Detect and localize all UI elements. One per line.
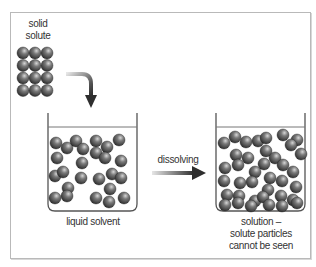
solid-solute-particles	[17, 47, 53, 97]
particle	[41, 85, 53, 97]
particle	[234, 177, 246, 189]
right-beaker	[216, 113, 307, 212]
right-arrow-icon	[152, 166, 206, 180]
particle	[242, 152, 254, 164]
solution-label-line3: cannot be seen	[215, 240, 307, 252]
particle	[219, 199, 231, 211]
particle	[29, 47, 41, 59]
solvent-particles	[49, 134, 130, 208]
particle	[104, 183, 116, 195]
particle	[263, 199, 275, 211]
particle	[115, 172, 127, 184]
particle	[260, 132, 272, 144]
particle	[41, 47, 53, 59]
particle	[290, 181, 302, 193]
particle	[49, 192, 61, 204]
particle	[103, 196, 115, 208]
particle	[295, 148, 307, 160]
particle	[118, 192, 130, 204]
particle	[218, 175, 230, 187]
particle	[90, 192, 102, 204]
particle	[115, 155, 127, 167]
particle	[99, 152, 111, 164]
solution-particles	[218, 129, 307, 212]
solution-label-line2: solute particles	[215, 228, 307, 240]
particle	[229, 131, 241, 143]
particle	[57, 166, 69, 178]
particle	[17, 85, 29, 97]
particle	[277, 129, 289, 141]
particle	[75, 172, 87, 184]
curved-arrow-icon	[66, 74, 97, 108]
particle	[276, 175, 288, 187]
particle	[277, 159, 289, 171]
particle	[29, 85, 41, 97]
particle	[17, 72, 29, 84]
solid-solute-label-line2: solute	[14, 30, 62, 42]
particle	[287, 166, 299, 178]
particle	[76, 157, 88, 169]
particle	[240, 136, 252, 148]
particle	[245, 200, 257, 212]
particle	[285, 139, 297, 151]
particle	[232, 197, 244, 209]
particle	[51, 152, 63, 164]
solution-label-line1: solution –	[215, 216, 307, 228]
particle	[93, 173, 105, 185]
particle	[29, 72, 41, 84]
particle	[90, 135, 102, 147]
particle	[258, 158, 270, 170]
particle	[232, 159, 244, 171]
particle	[246, 176, 258, 188]
particle	[50, 137, 62, 149]
dissolving-label: dissolving	[148, 154, 208, 166]
solid-solute-label: solid solute	[14, 18, 62, 42]
particle	[291, 197, 303, 209]
particle	[218, 137, 230, 149]
particle	[219, 162, 231, 174]
particle	[61, 190, 73, 202]
particle	[264, 172, 276, 184]
particle	[41, 72, 53, 84]
particle	[113, 134, 125, 146]
particle	[77, 143, 89, 155]
particle	[29, 60, 41, 72]
solid-solute-label-line1: solid	[14, 18, 62, 30]
left-beaker	[48, 113, 137, 211]
particle	[101, 141, 113, 153]
solution-label: solution – solute particles cannot be se…	[215, 216, 307, 252]
liquid-solvent-label: liquid solvent	[50, 216, 136, 228]
particle	[276, 200, 288, 212]
particle	[17, 60, 29, 72]
particle	[17, 47, 29, 59]
particle	[41, 60, 53, 72]
